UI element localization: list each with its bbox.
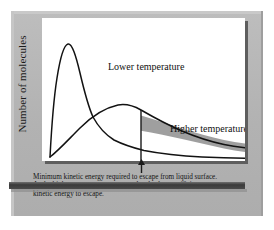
y-axis-label: Number of molecules	[16, 24, 28, 144]
plot-area: Lower temperature Higher temperature	[42, 18, 245, 161]
minimum-energy-arrow	[136, 159, 148, 174]
bottom-accent-bar-shadow	[11, 189, 247, 192]
panel-bevel-right	[261, 11, 263, 216]
figure-root: Number of molecules Lower temperature Hi…	[0, 0, 274, 230]
bottom-accent-bar	[9, 182, 245, 189]
distribution-curves-svg	[42, 18, 245, 161]
lower-temperature-label: Lower temperature	[108, 61, 184, 72]
panel-bevel-top	[11, 11, 263, 14]
higher-temperature-label: Higher temperature	[170, 123, 245, 134]
caption-line-1: Minimum kinetic energy required to escap…	[33, 173, 241, 181]
